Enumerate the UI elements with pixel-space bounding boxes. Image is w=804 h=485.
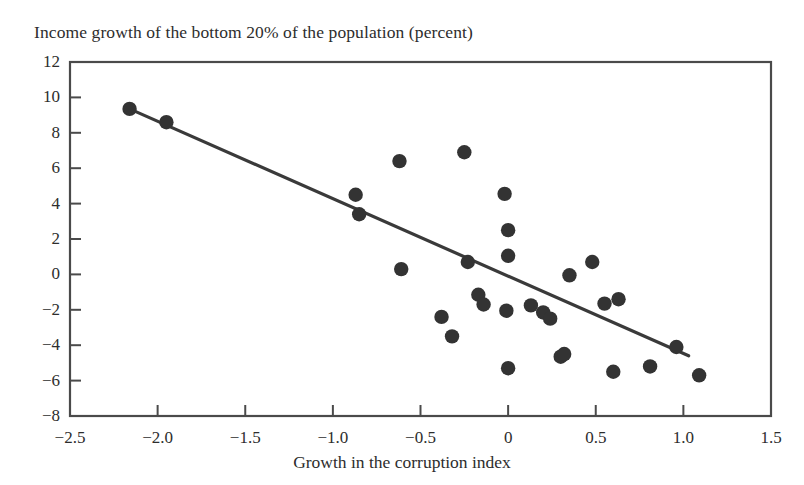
x-tick-label: 1.5 — [760, 428, 781, 448]
data-point — [122, 102, 136, 116]
data-point — [348, 188, 362, 202]
data-point — [476, 297, 490, 311]
data-point — [501, 249, 515, 263]
x-tick-label: −2.5 — [55, 428, 86, 448]
data-point — [501, 223, 515, 237]
x-tick-label: 1.0 — [673, 428, 694, 448]
data-point — [643, 359, 657, 373]
data-point — [445, 329, 459, 343]
data-point — [501, 361, 515, 375]
data-point — [611, 292, 625, 306]
data-point — [159, 115, 173, 129]
data-point — [557, 347, 571, 361]
data-point — [585, 255, 599, 269]
data-point — [461, 255, 475, 269]
y-tick-label: 6 — [14, 158, 60, 178]
data-point — [524, 298, 538, 312]
y-tick-label: −6 — [14, 371, 60, 391]
data-point — [497, 187, 511, 201]
x-tick-label: −2.0 — [142, 428, 173, 448]
x-tick-label: 0 — [504, 428, 513, 448]
trendline — [130, 109, 689, 356]
x-tick-label: 0.5 — [585, 428, 606, 448]
data-point — [562, 268, 576, 282]
data-point — [606, 365, 620, 379]
y-tick-label: 10 — [14, 87, 60, 107]
data-point — [543, 311, 557, 325]
data-point — [392, 154, 406, 168]
x-tick-label: −0.5 — [405, 428, 436, 448]
y-tick-label: −8 — [14, 406, 60, 426]
scatter-plot-canvas — [0, 0, 804, 485]
data-point — [669, 340, 683, 354]
data-point — [457, 145, 471, 159]
chart-title: Income growth of the bottom 20% of the p… — [34, 22, 473, 43]
x-tick-label: −1.0 — [317, 428, 348, 448]
y-tick-label: −2 — [14, 300, 60, 320]
x-axis-title: Growth in the corruption index — [0, 452, 804, 473]
data-point — [352, 207, 366, 221]
x-tick-label: −1.5 — [230, 428, 261, 448]
y-tick-label: 0 — [14, 264, 60, 284]
data-point — [434, 310, 448, 324]
data-point — [499, 303, 513, 317]
data-point — [394, 262, 408, 276]
y-tick-label: 4 — [14, 194, 60, 214]
y-tick-label: 12 — [14, 52, 60, 72]
data-point — [692, 368, 706, 382]
chart-figure: Income growth of the bottom 20% of the p… — [0, 0, 804, 485]
y-tick-label: 8 — [14, 123, 60, 143]
y-tick-label: −4 — [14, 335, 60, 355]
y-tick-label: 2 — [14, 229, 60, 249]
data-point — [597, 296, 611, 310]
